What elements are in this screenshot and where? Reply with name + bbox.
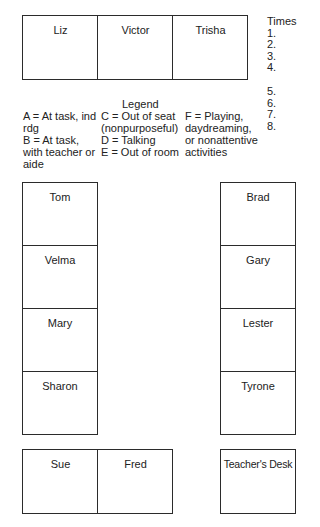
seat-label: Tom: [50, 191, 71, 203]
legend-line: or nonattentive: [185, 134, 258, 146]
teacher-desk-label: Teacher's Desk: [224, 458, 293, 470]
legend-line: F = Playing,: [185, 110, 243, 122]
time-slot-5: 5.: [267, 86, 297, 98]
time-slot-7: 7.: [267, 109, 297, 121]
legend-line: (nonpurposeful): [101, 122, 178, 134]
seat-label: Velma: [45, 254, 76, 266]
times-header: Times: [267, 16, 297, 28]
legend-line: E = Out of room: [101, 146, 179, 158]
seat-sharon: Sharon: [23, 372, 97, 435]
seat-label: Fred: [124, 458, 147, 470]
time-slot-4: 4.: [267, 62, 297, 74]
seat-brad: Brad: [221, 183, 295, 246]
seat-label: Trisha: [195, 24, 225, 36]
seat-sue: Sue: [23, 450, 98, 513]
seat-gary: Gary: [221, 246, 295, 309]
teacher-desk: Teacher's Desk: [220, 449, 296, 514]
seat-label: Victor: [122, 24, 150, 36]
seat-label: Brad: [246, 191, 269, 203]
seat-trisha: Trisha: [173, 16, 248, 79]
legend-line: rdg: [23, 122, 39, 134]
seat-label: Tyrone: [241, 380, 275, 392]
legend-line: C = Out of seat: [101, 110, 175, 122]
times-list: Times 1. 2. 3. 4. 5. 6. 7. 8.: [267, 16, 297, 132]
legend-line: B = At task,: [23, 134, 79, 146]
seat-label: Gary: [246, 254, 270, 266]
legend-line: aide: [23, 158, 44, 170]
top-row-desks: Liz Victor Trisha: [22, 15, 248, 80]
seat-label: Lester: [243, 317, 274, 329]
legend-line: activities: [185, 146, 227, 158]
seat-victor: Victor: [98, 16, 173, 79]
seat-tyrone: Tyrone: [221, 372, 295, 435]
legend-line: daydreaming,: [185, 122, 252, 134]
time-slot-8: 8.: [267, 121, 297, 133]
right-column-desks: Brad Gary Lester Tyrone: [220, 182, 296, 435]
seat-velma: Velma: [23, 246, 97, 309]
seat-label: Liz: [53, 24, 67, 36]
seat-lester: Lester: [221, 309, 295, 372]
legend-line: A = At task, ind: [23, 110, 96, 122]
seat-liz: Liz: [23, 16, 98, 79]
seat-mary: Mary: [23, 309, 97, 372]
left-column-desks: Tom Velma Mary Sharon: [22, 182, 98, 435]
seat-label: Mary: [48, 317, 72, 329]
legend-line: D = Talking: [101, 134, 156, 146]
legend-line: with teacher or: [23, 146, 95, 158]
bottom-row-desks: Sue Fred: [22, 449, 173, 514]
teacher-desk-area: Teacher's Desk: [221, 450, 295, 513]
seat-fred: Fred: [98, 450, 173, 513]
seat-label: Sue: [51, 458, 71, 470]
seat-label: Sharon: [42, 380, 77, 392]
seat-tom: Tom: [23, 183, 97, 246]
legend-title: Legend: [122, 98, 159, 110]
